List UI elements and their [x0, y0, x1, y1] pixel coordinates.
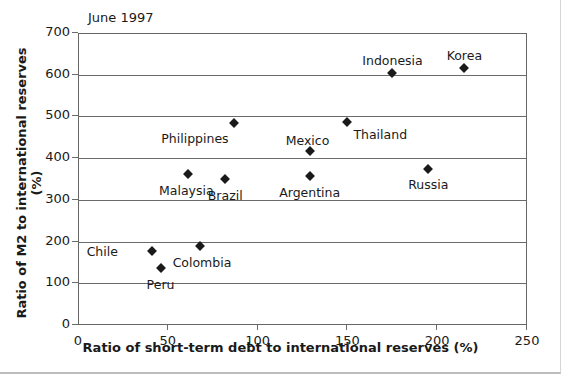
chart-annotation-date: June 1997: [88, 10, 154, 25]
gridline-y-600: [79, 75, 526, 76]
y-tick-mark-300: [72, 199, 78, 200]
x-tick-mark-50: [167, 325, 168, 330]
data-point-label: Chile: [87, 244, 118, 259]
data-point-label: Philippines: [161, 131, 228, 146]
data-point-label: Mexico: [286, 133, 330, 148]
data-point-label: Malaysia: [159, 183, 214, 198]
plot-area: [78, 33, 527, 325]
data-point-label: Russia: [408, 177, 448, 192]
y-tick-mark-0: [72, 324, 78, 325]
y-axis-title: Ratio of M2 to international reserves (%…: [14, 37, 44, 329]
y-tick-mark-500: [72, 115, 78, 116]
data-point-label: Brazil: [208, 188, 243, 203]
chart-figure: June 1997 010020030040050060070005010015…: [0, 0, 561, 374]
data-point-label: Peru: [147, 277, 175, 292]
y-tick-mark-100: [72, 282, 78, 283]
y-tick-mark-400: [72, 157, 78, 158]
gridline-y-500: [79, 116, 526, 117]
y-tick-mark-600: [72, 74, 78, 75]
x-tick-mark-100: [257, 325, 258, 330]
data-point-label: Korea: [447, 48, 482, 63]
gridline-y-200: [79, 242, 526, 243]
x-axis-title: Ratio of short-term debt to internationa…: [0, 340, 561, 355]
x-tick-mark-150: [346, 325, 347, 330]
data-point-label: Colombia: [173, 255, 232, 270]
data-point-label: Argentina: [279, 185, 340, 200]
y-tick-mark-700: [72, 32, 78, 33]
y-tick-mark-200: [72, 241, 78, 242]
data-point-label: Thailand: [353, 127, 407, 142]
gridline-y-400: [79, 158, 526, 159]
x-tick-mark-250: [526, 325, 527, 330]
x-tick-mark-200: [436, 325, 437, 330]
data-point-label: Indonesia: [362, 53, 422, 68]
